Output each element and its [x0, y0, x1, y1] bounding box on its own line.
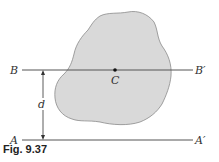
label-a-prime: A′: [194, 134, 206, 147]
diagram: B B′ A A′ C d: [0, 0, 219, 162]
label-distance: d: [38, 98, 45, 111]
figure-caption: Fig. 9.37: [3, 143, 47, 155]
figure-canvas: B B′ A A′ C d Fig. 9.37: [0, 0, 219, 162]
area-shape: [55, 11, 171, 124]
label-centroid: C: [111, 74, 120, 87]
centroid-point: [113, 68, 117, 72]
arrowhead-down-icon: [41, 135, 45, 140]
arrowhead-up-icon: [41, 70, 45, 75]
label-b-prime: B′: [194, 64, 206, 77]
label-b: B: [9, 64, 18, 77]
